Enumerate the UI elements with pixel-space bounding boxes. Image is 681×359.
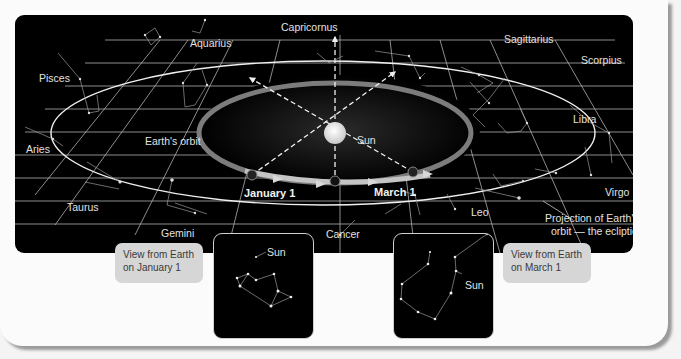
label-gemini: Gemini — [161, 228, 194, 239]
label-sun: Sun — [357, 135, 376, 146]
gemini-view-graphic — [214, 234, 313, 338]
label-cancer: Cancer — [326, 229, 360, 240]
label-capricornus: Capricornus — [281, 22, 338, 33]
inset-view-january: Sun — [213, 233, 314, 339]
label-taurus: Taurus — [67, 202, 99, 213]
label-march-1: March 1 — [374, 187, 416, 198]
label-leo: Leo — [471, 207, 489, 218]
label-virgo: Virgo — [605, 187, 629, 198]
label-ecliptic-line1: Projection of Earth's — [545, 213, 633, 224]
inset-view-march: Sun — [393, 233, 494, 339]
callout-march-line1: View from Earth — [511, 248, 591, 261]
label-january-1: January 1 — [244, 188, 295, 199]
label-earths-orbit: Earth's orbit — [145, 136, 201, 147]
celestial-sphere-panel: Capricornus Aquarius Sagittarius Scorpiu… — [15, 15, 633, 253]
label-scorpius: Scorpius — [581, 55, 622, 66]
label-pisces: Pisces — [39, 73, 70, 84]
label-libra: Libra — [573, 114, 596, 125]
inset-january-sun-label: Sun — [267, 247, 286, 258]
inset-march-sun-label: Sun — [465, 280, 484, 291]
ecliptic-diagram-graphic — [15, 15, 633, 253]
label-aquarius: Aquarius — [190, 38, 231, 49]
label-aries: Aries — [26, 144, 50, 155]
callout-january-line1: View from Earth — [123, 248, 203, 261]
sun-icon — [324, 122, 346, 144]
callout-january: View from Earth on January 1 — [115, 243, 203, 283]
figure-card: Capricornus Aquarius Sagittarius Scorpiu… — [0, 0, 668, 346]
label-sagittarius: Sagittarius — [504, 34, 554, 45]
callout-january-line2: on January 1 — [123, 261, 203, 274]
label-ecliptic-line2: orbit — the ecliptic — [551, 226, 633, 237]
callout-march-line2: on March 1 — [511, 261, 591, 274]
callout-march: View from Earth on March 1 — [503, 243, 591, 283]
